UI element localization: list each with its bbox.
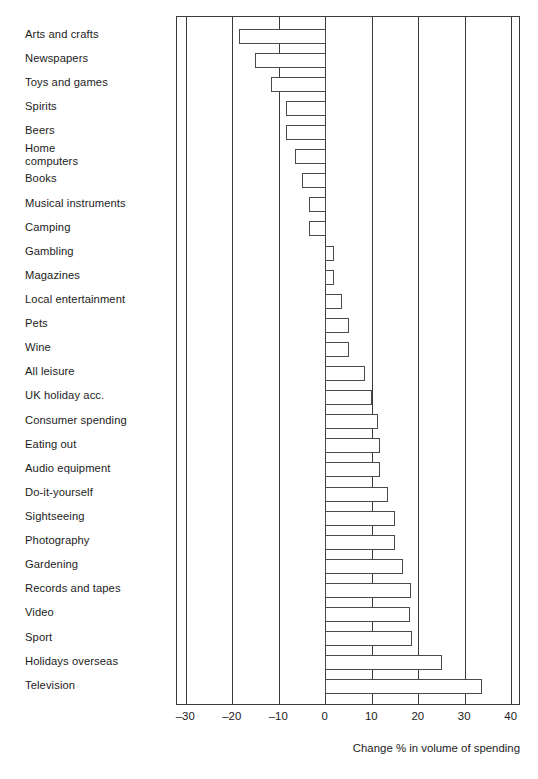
bar-local-entertainment	[325, 294, 343, 309]
bar-gambling	[325, 246, 334, 261]
bar-sport	[325, 631, 412, 646]
category-label-pets: Pets	[25, 317, 48, 329]
category-label-holidays-overseas: Holidays overseas	[25, 655, 118, 667]
chart-figure: Arts and craftsNewspapersToys and gamesS…	[0, 0, 538, 779]
bar-video	[325, 607, 411, 622]
bar-television	[325, 679, 482, 694]
bar-books	[302, 173, 325, 188]
gridline-10	[372, 17, 373, 704]
x-tick-label-neg30: –30	[176, 710, 195, 722]
category-label-beers: Beers	[25, 124, 55, 136]
x-axis: –30–20–10010203040	[176, 706, 520, 728]
plot-area	[176, 16, 520, 705]
category-label-television: Television	[25, 679, 75, 691]
category-label-camping: Camping	[25, 221, 70, 233]
bar-gardening	[325, 559, 404, 574]
bar-audio-equipment	[325, 462, 380, 477]
bar-sightseeing	[325, 511, 396, 526]
category-label-sport: Sport	[25, 631, 52, 643]
bar-holidays-overseas	[325, 655, 442, 670]
bar-wine	[325, 342, 349, 357]
x-tick-label-10: 10	[365, 710, 378, 722]
x-tick-label-40: 40	[504, 710, 517, 722]
category-label-eating-out: Eating out	[25, 438, 76, 450]
category-label-records-and-tapes: Records and tapes	[25, 582, 121, 594]
category-label-toys-and-games: Toys and games	[25, 76, 108, 88]
bar-home-computers	[295, 149, 326, 164]
bar-musical-instruments	[309, 197, 325, 212]
category-label-musical-instruments: Musical instruments	[25, 197, 126, 209]
gridline-neg10	[279, 17, 280, 704]
bar-do-it-yourself	[325, 487, 388, 502]
x-tick-label-neg20: –20	[222, 710, 241, 722]
bar-records-and-tapes	[325, 583, 411, 598]
bar-photography	[325, 535, 396, 550]
category-label-newspapers: Newspapers	[25, 52, 88, 64]
category-label-home-computers: Home computers	[25, 142, 78, 167]
category-label-local-entertainment: Local entertainment	[25, 293, 125, 305]
bar-magazines	[325, 270, 334, 285]
category-label-magazines: Magazines	[25, 269, 80, 281]
bar-beers	[286, 125, 326, 140]
gridline-neg20	[232, 17, 233, 704]
bar-consumer-spending	[325, 414, 379, 429]
x-tick-label-neg10: –10	[269, 710, 288, 722]
category-label-video: Video	[25, 606, 54, 618]
x-tick-label-0: 0	[322, 710, 328, 722]
category-label-books: Books	[25, 172, 57, 184]
x-tick-label-20: 20	[411, 710, 424, 722]
gridline-30	[465, 17, 466, 704]
bar-all-leisure	[325, 366, 366, 381]
category-label-photography: Photography	[25, 534, 90, 546]
bar-arts-and-crafts	[239, 29, 326, 44]
gridline-0	[325, 17, 326, 704]
bar-toys-and-games	[271, 77, 325, 92]
category-label-gambling: Gambling	[25, 245, 74, 257]
category-label-wine: Wine	[25, 341, 51, 353]
bar-spirits	[286, 101, 326, 116]
x-tick-label-30: 30	[458, 710, 471, 722]
gridline-neg30	[186, 17, 187, 704]
category-label-audio-equipment: Audio equipment	[25, 462, 110, 474]
bar-camping	[309, 221, 325, 236]
category-label-consumer-spending: Consumer spending	[25, 414, 127, 426]
bar-pets	[325, 318, 349, 333]
category-label-uk-holiday-acc: UK holiday acc.	[25, 389, 104, 401]
category-label-arts-and-crafts: Arts and crafts	[25, 28, 99, 40]
category-label-all-leisure: All leisure	[25, 365, 75, 377]
gridline-40	[511, 17, 512, 704]
bar-newspapers	[255, 53, 326, 68]
gridline-20	[418, 17, 419, 704]
category-label-spirits: Spirits	[25, 100, 57, 112]
category-label-gardening: Gardening	[25, 558, 78, 570]
category-label-column: Arts and craftsNewspapersToys and gamesS…	[0, 0, 172, 779]
x-axis-title: Change % in volume of spending	[353, 742, 520, 754]
category-label-do-it-yourself: Do-it-yourself	[25, 486, 93, 498]
category-label-sightseeing: Sightseeing	[25, 510, 85, 522]
bar-uk-holiday-acc	[325, 390, 372, 405]
bar-eating-out	[325, 438, 380, 453]
